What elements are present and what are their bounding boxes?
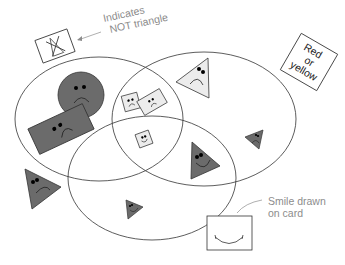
not-triangle-set-ellipse (15, 57, 183, 181)
smile-card (207, 216, 252, 250)
dark-rectangle-frown (28, 104, 94, 155)
on-card-label: on card (268, 207, 303, 219)
arrowhead-icon (77, 36, 82, 41)
outside-dark-triangle-frown (25, 169, 61, 209)
light-triangle-frown (176, 58, 209, 98)
light-rectangle-frown (137, 89, 168, 116)
light-square-smile (135, 130, 153, 148)
not-triangle-card (35, 29, 75, 63)
venn-diagram: Red or yellow Indicates NOT triangle Smi… (0, 0, 345, 265)
small-dark-triangle-smile (126, 200, 143, 219)
dark-triangle-smile (191, 142, 220, 179)
smile-card-pointer (237, 200, 262, 213)
smile-drawn-label: Smile drawn (268, 195, 326, 207)
small-dark-triangle-frown (245, 130, 263, 149)
